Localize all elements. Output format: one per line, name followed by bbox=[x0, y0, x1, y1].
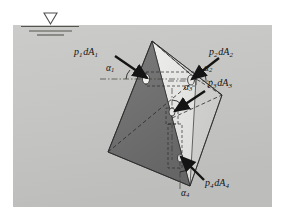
force-label-p2: p2 dA2 bbox=[209, 47, 233, 59]
force-label-p4: p4 dA4 bbox=[205, 178, 229, 190]
figure-container: p1 dA1 p2 dA2 p3 dA3 p4 dA4 α1 α2 α3 α4 bbox=[0, 0, 283, 220]
dA3-marker bbox=[169, 108, 175, 116]
diagram-canvas bbox=[0, 0, 283, 220]
force-label-p1: p1 dA1 bbox=[74, 47, 98, 59]
water-surface-triangle-icon bbox=[44, 13, 57, 24]
angle-label-alpha2: α2 bbox=[204, 64, 212, 74]
force-label-p3: p3 dA3 bbox=[208, 78, 232, 90]
angle-label-alpha1: α1 bbox=[106, 64, 114, 74]
angle-label-alpha3: α3 bbox=[184, 83, 192, 93]
angle-label-alpha4: α4 bbox=[181, 189, 189, 199]
